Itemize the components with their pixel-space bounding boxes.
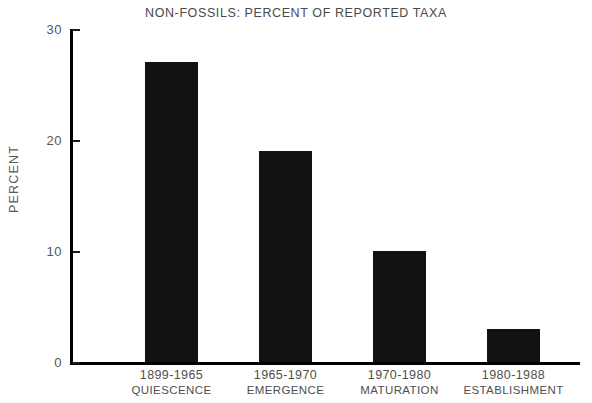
chart-page: NON-FOSSILS: PERCENT OF REPORTED TAXA PE… bbox=[0, 0, 592, 403]
y-axis-title: PERCENT bbox=[7, 139, 21, 219]
y-tick-mark-30 bbox=[73, 29, 80, 31]
bar bbox=[145, 62, 198, 362]
y-tick-label-20: 20 bbox=[22, 133, 62, 148]
y-tick-mark-10 bbox=[73, 251, 80, 253]
y-tick-label-0: 0 bbox=[22, 355, 62, 370]
y-tick-mark-20 bbox=[73, 140, 80, 142]
bar bbox=[487, 329, 540, 362]
x-axis-line bbox=[70, 362, 580, 365]
y-tick-mark-0 bbox=[73, 362, 80, 364]
x-tick-label-name: ESTABLISHMENT bbox=[443, 384, 584, 396]
y-axis-line bbox=[70, 29, 73, 365]
bar bbox=[259, 151, 312, 362]
bar bbox=[373, 251, 426, 362]
y-tick-label-10: 10 bbox=[22, 244, 62, 259]
plot-area: PERCENT 0 10 20 30 1899-1965 QUIESCENCE … bbox=[0, 0, 592, 403]
x-tick-label-range: 1980-1988 bbox=[443, 368, 584, 382]
y-tick-label-30: 30 bbox=[22, 22, 62, 37]
